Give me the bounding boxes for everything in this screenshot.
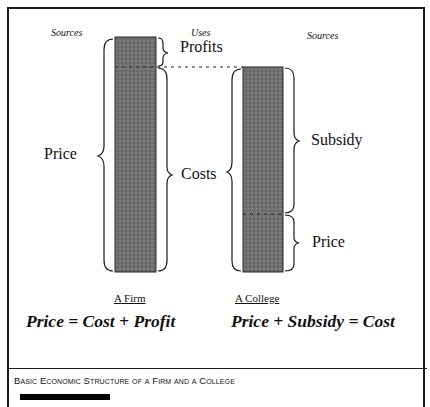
college-price-label: Price bbox=[312, 233, 345, 251]
firm-equation: Price = Cost + Profit bbox=[26, 311, 175, 332]
college-subsidy-brace bbox=[285, 68, 299, 213]
firm-costs-label: Costs bbox=[181, 165, 217, 183]
firm-bar bbox=[115, 37, 156, 272]
college-sources-header: Sources bbox=[307, 30, 338, 41]
firm-price-brace bbox=[98, 39, 113, 271]
firm-profits-brace bbox=[158, 38, 168, 66]
firm-costs-brace bbox=[158, 68, 172, 271]
firm-price-label: Price bbox=[44, 145, 77, 163]
college-bar bbox=[243, 67, 283, 272]
college-left-brace bbox=[227, 69, 241, 271]
uses-header: Uses bbox=[191, 27, 210, 38]
college-subsidy-label: Subsidy bbox=[311, 131, 363, 149]
college-equation: Price + Subsidy = Cost bbox=[231, 311, 395, 332]
firm-title: A Firm bbox=[114, 292, 145, 304]
college-title: A College bbox=[235, 292, 279, 304]
college-price-brace bbox=[285, 215, 299, 271]
firm-profits-label: Profits bbox=[180, 38, 223, 56]
firm-sources-header: Sources bbox=[51, 27, 82, 38]
caption-black-bar bbox=[20, 394, 110, 400]
figure-caption: Basic Economic Structure of a Firm and a… bbox=[14, 375, 235, 386]
caption-divider bbox=[7, 368, 427, 369]
